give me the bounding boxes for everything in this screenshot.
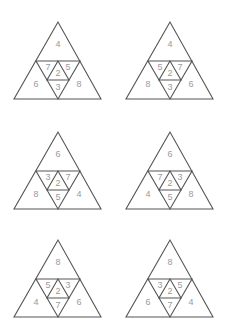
inner-left-number: 5	[45, 280, 50, 290]
top-number: 8	[55, 257, 60, 267]
center-number: 2	[55, 178, 60, 188]
center-number: 2	[55, 68, 60, 78]
left-number: 8	[33, 189, 38, 199]
top-number: 8	[167, 257, 172, 267]
inner-right-number: 3	[177, 172, 182, 182]
inner-left-number: 5	[157, 62, 162, 72]
center-number: 2	[167, 286, 172, 296]
right-number: 6	[76, 297, 81, 307]
top-number: 6	[55, 149, 60, 159]
triangle-puzzle-sheet: 4 6 8 7 2 5 3 4 8 6 5 2 7 3 6 8 4 3 2 7 …	[0, 0, 229, 336]
inner-right-number: 7	[65, 172, 70, 182]
right-number: 8	[76, 79, 81, 89]
right-number: 8	[188, 189, 193, 199]
triangle-puzzle: 6 4 8 7 2 3 5	[126, 132, 213, 209]
inner-right-number: 5	[177, 280, 182, 290]
left-number: 6	[145, 297, 150, 307]
bottom-number: 3	[55, 82, 60, 92]
center-number: 2	[167, 178, 172, 188]
inner-right-number: 5	[65, 62, 70, 72]
triangle-puzzle: 8 6 4 3 2 5 7	[126, 240, 213, 317]
inner-right-number: 3	[65, 280, 70, 290]
right-number: 4	[76, 189, 81, 199]
bottom-number: 5	[167, 192, 172, 202]
right-number: 4	[188, 297, 193, 307]
triangle-puzzle: 8 4 6 5 2 3 7	[14, 240, 101, 317]
bottom-number: 7	[55, 300, 60, 310]
left-number: 4	[145, 189, 150, 199]
inner-left-number: 3	[157, 280, 162, 290]
inner-left-number: 7	[157, 172, 162, 182]
inner-left-number: 7	[45, 62, 50, 72]
left-number: 8	[145, 79, 150, 89]
top-number: 4	[55, 39, 60, 49]
left-number: 6	[33, 79, 38, 89]
top-number: 4	[167, 39, 172, 49]
right-number: 6	[188, 79, 193, 89]
top-number: 6	[167, 149, 172, 159]
triangle-puzzle: 4 6 8 7 2 5 3	[14, 22, 101, 99]
triangle-puzzle: 6 8 4 3 2 7 5	[14, 132, 101, 209]
inner-left-number: 3	[45, 172, 50, 182]
bottom-number: 3	[167, 82, 172, 92]
bottom-number: 5	[55, 192, 60, 202]
triangle-puzzle: 4 8 6 5 2 7 3	[126, 22, 213, 99]
center-number: 2	[167, 68, 172, 78]
bottom-number: 7	[167, 300, 172, 310]
center-number: 2	[55, 286, 60, 296]
inner-right-number: 7	[177, 62, 182, 72]
left-number: 4	[33, 297, 38, 307]
